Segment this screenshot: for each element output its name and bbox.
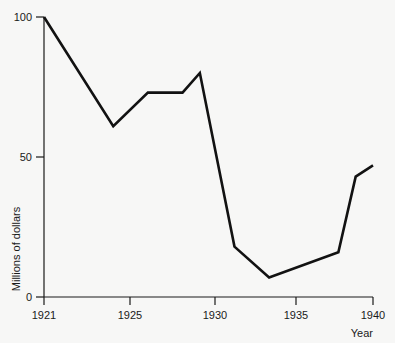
y-axis-title: Millions of dollars [10,206,22,291]
line-chart-figure: 100 50 0 1921 1925 1930 1935 1940 Millio… [0,0,395,343]
y-tick-label-0: 0 [26,291,32,303]
x-tick-label-1930: 1930 [203,309,227,321]
x-axis-title: Year [351,327,374,339]
x-tick-label-1935: 1935 [284,309,308,321]
chart-plot-area: 100 50 0 1921 1925 1930 1935 1940 Millio… [0,0,395,343]
x-tick-label-1940: 1940 [361,309,385,321]
x-tick-label-1921: 1921 [32,309,56,321]
data-series-line [44,17,373,277]
x-tick-label-1925: 1925 [118,309,142,321]
y-tick-label-100: 100 [14,11,32,23]
y-tick-label-50: 50 [20,151,32,163]
